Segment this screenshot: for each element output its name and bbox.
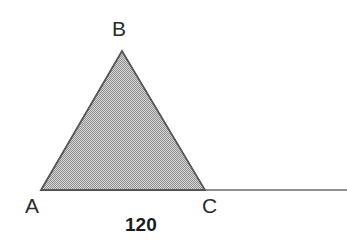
vertex-label-b: B <box>112 18 126 39</box>
vertex-label-c: C <box>202 195 217 216</box>
vertex-label-a: A <box>25 195 39 216</box>
base-length-label: 120 <box>125 215 157 234</box>
triangle-abc-shape <box>41 51 205 190</box>
figure-canvas <box>0 0 347 252</box>
geometry-figure: A B C 120 <box>0 0 347 252</box>
